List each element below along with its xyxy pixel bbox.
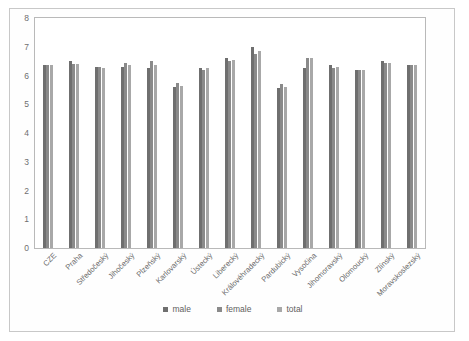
legend-swatch-icon [163, 307, 168, 312]
legend-swatch-icon [277, 307, 282, 312]
y-tick-label: 3 [24, 157, 29, 166]
bar-group [147, 18, 158, 248]
bar-male[interactable] [147, 68, 150, 248]
chart-legend: malefemaletotal [10, 305, 456, 314]
x-tick-label: Praha [64, 251, 85, 272]
y-tick-label: 4 [24, 129, 29, 138]
bar-group [43, 18, 54, 248]
bar-group [199, 18, 210, 248]
bar-total[interactable] [154, 65, 157, 248]
y-tick-label: 7 [24, 42, 29, 51]
bar-female[interactable] [150, 61, 153, 248]
bar-group [225, 18, 236, 248]
x-tick-label: CZE [41, 251, 58, 268]
bar-total[interactable] [102, 68, 105, 248]
bar-male[interactable] [225, 58, 228, 248]
bar-group [173, 18, 184, 248]
bar-total[interactable] [180, 86, 183, 248]
bar-total[interactable] [128, 65, 131, 248]
bar-female[interactable] [228, 61, 231, 248]
bar-male[interactable] [251, 47, 254, 248]
bar-group [303, 18, 314, 248]
bar-female[interactable] [202, 70, 205, 248]
legend-label: male [172, 305, 190, 314]
y-tick-label: 6 [24, 71, 29, 80]
bar-male[interactable] [381, 61, 384, 248]
bar-female[interactable] [306, 58, 309, 248]
bar-female[interactable] [358, 70, 361, 248]
bar-male[interactable] [173, 87, 176, 248]
bar-male[interactable] [303, 68, 306, 248]
bar-female[interactable] [254, 54, 257, 248]
bar-total[interactable] [414, 65, 417, 248]
bar-total[interactable] [284, 87, 287, 248]
bar-total[interactable] [258, 51, 261, 248]
bar-total[interactable] [336, 67, 339, 248]
bar-group [121, 18, 132, 248]
bar-group [95, 18, 106, 248]
legend-swatch-icon [217, 307, 222, 312]
bar-female[interactable] [384, 63, 387, 248]
x-tick-label: Zlínský [373, 251, 396, 274]
bar-total[interactable] [362, 70, 365, 248]
y-tick-label: 5 [24, 100, 29, 109]
y-tick-label: 0 [24, 244, 29, 253]
bar-total[interactable] [232, 60, 235, 248]
bar-female[interactable] [72, 64, 75, 248]
bar-female[interactable] [176, 83, 179, 248]
y-tick-label: 2 [24, 186, 29, 195]
y-tick-label: 1 [24, 215, 29, 224]
bar-total[interactable] [388, 63, 391, 248]
bar-total[interactable] [206, 68, 209, 248]
bar-male[interactable] [121, 67, 124, 248]
bar-male[interactable] [199, 68, 202, 248]
bar-male[interactable] [407, 65, 410, 248]
bar-group [355, 18, 366, 248]
bar-group [381, 18, 392, 248]
legend-label: female [226, 305, 252, 314]
bar-female[interactable] [46, 65, 49, 248]
bar-male[interactable] [43, 65, 46, 248]
legend-item-female[interactable]: female [217, 305, 252, 314]
plot-area [35, 18, 425, 248]
bar-male[interactable] [95, 67, 98, 248]
bar-male[interactable] [69, 61, 72, 248]
bar-group [69, 18, 80, 248]
bars-layer [35, 18, 425, 248]
bar-group [407, 18, 418, 248]
bar-group [251, 18, 262, 248]
bar-total[interactable] [76, 64, 79, 248]
bar-total[interactable] [310, 58, 313, 248]
bar-female[interactable] [124, 63, 127, 248]
x-tick-label: Jihočeský [106, 251, 136, 281]
legend-item-male[interactable]: male [163, 305, 190, 314]
bar-female[interactable] [332, 68, 335, 248]
y-tick-label: 8 [24, 14, 29, 23]
bar-male[interactable] [355, 70, 358, 248]
bar-female[interactable] [98, 67, 101, 248]
bar-chart: 012345678 CZEPrahaStředočeskýJihočeskýPl… [10, 9, 456, 333]
legend-item-total[interactable]: total [277, 305, 302, 314]
y-axis: 012345678 [10, 9, 34, 257]
figure-frame: 012345678 CZEPrahaStředočeskýJihočeskýPl… [9, 8, 455, 332]
legend-label: total [286, 305, 302, 314]
x-axis: CZEPrahaStředočeskýJihočeskýPlzeňskýKarl… [35, 251, 427, 309]
bar-male[interactable] [277, 88, 280, 248]
bar-male[interactable] [329, 65, 332, 248]
bar-total[interactable] [50, 65, 53, 248]
bar-female[interactable] [280, 84, 283, 248]
bar-group [329, 18, 340, 248]
bar-group [277, 18, 288, 248]
bar-female[interactable] [410, 65, 413, 248]
